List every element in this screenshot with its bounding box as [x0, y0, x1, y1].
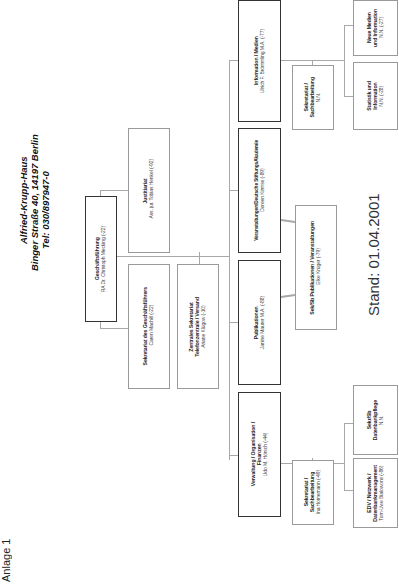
org-phone: Tel: 030/897947-0 — [40, 170, 51, 250]
box-management: GeschäftsführungRA Dr. Christoph Mecking… — [85, 196, 117, 322]
box-legal: JustitiariatAss. jur. Tobias Henkel (-92… — [128, 128, 170, 253]
connector-line — [344, 25, 353, 26]
box-person: N.N. — [316, 93, 322, 103]
box-pub-events-secretary: Sek/Sb Publikationen / VeranstaltungenEl… — [295, 205, 337, 330]
box-dept-administration: Verwaltung / Organisation /FinanzenUdo M… — [238, 392, 281, 517]
box-person: Ariane Klügow (-10) — [201, 305, 207, 347]
box-statistics: Statistik undInformationN.N. (-28) — [353, 62, 398, 130]
box-person: Ina Homemann (-49) — [316, 470, 322, 514]
box-person: N.N. — [379, 415, 385, 425]
connector-line — [100, 190, 128, 191]
box-person: N.N. (-28) — [379, 86, 385, 107]
box-person: RA Dr. Christoph Mecking (-22) — [101, 226, 107, 292]
org-address: Binger Straße 40, 14197 Berlin — [29, 125, 40, 280]
box-person: Elke Krüger (-79) — [316, 248, 322, 284]
box-person: Ulrich F. Brömmling M.A. (-77) — [260, 29, 266, 93]
box-secretary-gf: Sekretariat des GeschäftsführersCaren Ma… — [128, 264, 170, 389]
connector-line — [100, 328, 128, 329]
box-central-secretary: Zentrales SekretariatTelefonzentrale / V… — [177, 264, 219, 389]
box-person: Ass. jur. Tobias Henkel (-92) — [149, 159, 155, 219]
connector-line — [344, 423, 345, 491]
box-person: Doreen Kirmse (-89) — [259, 169, 265, 212]
connector-line — [117, 256, 229, 257]
connector-line — [281, 294, 295, 298]
box-person: N.N. (-27) — [379, 18, 385, 39]
connector-line — [344, 423, 353, 424]
box-database-care: Sekr/SbDatenbankpflegeN.N. — [353, 385, 398, 455]
box-person: Janine Maurer M.A. (-88) — [260, 296, 266, 349]
connector-line — [229, 190, 238, 191]
connector-line — [281, 219, 295, 223]
box-person: Udo M. Hörsch (-44) — [263, 433, 269, 476]
box-new-media: Neue Medienund InformationN.N. (-27) — [353, 0, 398, 56]
box-dept-info-media: Information / MedienUlrich F. Brömmling … — [238, 0, 281, 122]
connector-line — [344, 25, 345, 97]
annex-label: Anlage 1 — [0, 512, 12, 582]
box-person: Caren Machill (-22) — [149, 305, 155, 346]
connector-line — [229, 455, 238, 456]
connector-line — [344, 96, 353, 97]
connector-line — [229, 322, 238, 323]
connector-line — [229, 60, 230, 460]
connector-line — [229, 60, 238, 61]
box-it: EDV / Netzwerk /DatenbankmanagementTom-U… — [353, 458, 398, 528]
box-info-secretariat: Sekretariat /SachbearbeitungN.N. — [292, 65, 334, 130]
org-name: Alfried-Krupp-Haus — [18, 150, 29, 250]
box-dept-publications: PublikationenJanine Maurer M.A. (-88) — [238, 260, 281, 385]
connector-line — [344, 490, 353, 491]
status-date: Stand: 01.04.2001 — [365, 180, 382, 330]
box-admin-secretariat: Sekretariat /SachbearbeitungIna Homemann… — [292, 460, 334, 525]
box-dept-events: Veranstaltungen/Deutsche StiftungsAkadem… — [238, 128, 281, 253]
box-person: Tom-Uwe Bialowons (-86) — [379, 466, 385, 521]
